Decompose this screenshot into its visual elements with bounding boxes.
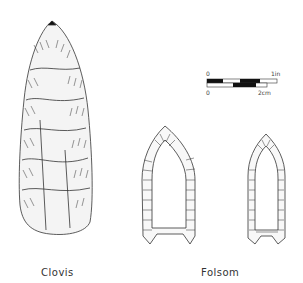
scale-bar (207, 79, 277, 87)
artifact-illustrations (0, 0, 303, 283)
scale-cm-start: 0 (206, 89, 210, 96)
clovis-point-drawing (19, 21, 92, 235)
scale-inch-start: 0 (206, 70, 210, 77)
folsom-label: Folsom (201, 267, 239, 278)
scale-inch-end: 1in (271, 70, 280, 77)
scale-cm-end: 2cm (258, 89, 271, 96)
folsom-point-drawing-1 (142, 126, 195, 244)
folsom-point-drawing-2 (248, 134, 285, 244)
clovis-label: Clovis (41, 267, 74, 278)
